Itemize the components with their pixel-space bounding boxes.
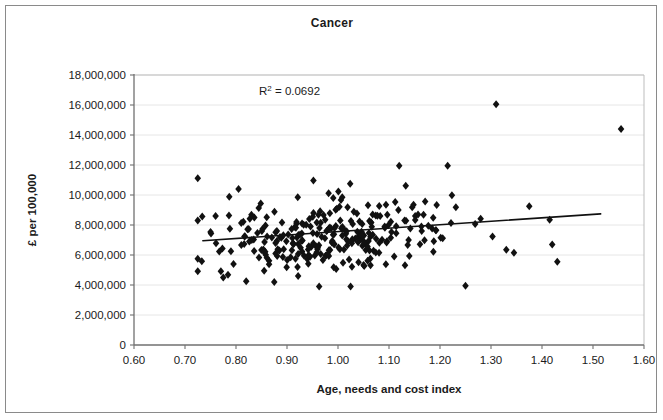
data-point — [402, 261, 409, 269]
data-point — [230, 260, 237, 268]
data-point — [396, 162, 403, 170]
data-point — [226, 193, 233, 201]
data-point — [271, 208, 278, 216]
data-point — [503, 246, 510, 254]
y-axis-title: £ per 100,000 — [26, 174, 38, 246]
data-point — [344, 203, 351, 211]
data-point — [295, 272, 302, 280]
data-point — [376, 202, 383, 210]
y-axis-tick-label: 10,000,000 — [68, 189, 126, 201]
plot-area-border — [134, 75, 644, 345]
data-point — [347, 283, 354, 291]
data-point — [212, 212, 219, 220]
annotations: R2 = 0.0692 — [259, 84, 320, 97]
data-point — [618, 125, 625, 133]
x-axis-tick-label: 1.40 — [531, 354, 553, 366]
data-point — [194, 174, 201, 182]
data-point — [283, 237, 290, 245]
data-point — [346, 255, 353, 263]
data-point — [453, 203, 460, 211]
y-axis-tick-label: 6,000,000 — [75, 249, 126, 261]
data-point — [310, 176, 317, 184]
x-axis: 0.600.700.800.901.001.101.201.301.401.50… — [123, 345, 655, 366]
data-point — [421, 236, 428, 244]
x-axis-tick-label: 0.80 — [225, 354, 247, 366]
x-axis-title: Age, needs and cost index — [316, 383, 462, 395]
data-point — [395, 206, 402, 214]
figure-border: Cancer 02,000,0004,000,0006,000,0008,000… — [5, 5, 657, 413]
x-axis-tick-label: 1.30 — [480, 354, 502, 366]
data-point — [241, 232, 248, 240]
y-axis: 02,000,0004,000,0006,000,0008,000,00010,… — [68, 69, 134, 351]
data-point — [383, 201, 390, 209]
data-point — [392, 198, 399, 206]
data-point — [422, 198, 429, 206]
data-point — [227, 225, 234, 233]
data-point — [325, 189, 332, 197]
data-point — [226, 211, 233, 219]
scatter-plot: 02,000,0004,000,0006,000,0008,000,00010,… — [6, 6, 658, 414]
data-point — [430, 214, 437, 222]
data-point — [418, 227, 425, 235]
data-point — [402, 182, 409, 190]
data-point — [549, 241, 556, 249]
data-point — [327, 209, 334, 217]
data-point — [462, 282, 469, 290]
data-point — [261, 267, 268, 275]
data-point — [431, 237, 438, 245]
data-point — [406, 252, 413, 260]
y-axis-tick-label: 8,000,000 — [75, 219, 126, 231]
data-point — [316, 283, 323, 291]
data-point — [393, 222, 400, 230]
data-point — [420, 211, 427, 219]
x-axis-tick-label: 0.70 — [174, 354, 196, 366]
r-squared-annotation: R2 = 0.0692 — [259, 84, 320, 97]
x-axis-tick-label: 1.00 — [327, 354, 349, 366]
y-axis-tick-label: 14,000,000 — [68, 129, 126, 141]
data-point — [526, 202, 533, 210]
data-point — [489, 233, 496, 241]
data-point — [384, 211, 391, 219]
y-axis-tick-label: 18,000,000 — [68, 69, 126, 81]
data-point — [294, 263, 301, 271]
x-axis-tick-label: 1.50 — [582, 354, 604, 366]
data-point — [243, 277, 250, 285]
data-point — [407, 225, 414, 233]
data-point — [365, 201, 372, 209]
x-axis-tick-label: 0.90 — [276, 354, 298, 366]
data-point — [283, 263, 290, 271]
y-axis-tick-label: 12,000,000 — [68, 159, 126, 171]
data-point — [235, 185, 242, 193]
data-point — [449, 191, 456, 199]
data-point — [472, 220, 479, 228]
y-axis-tick-label: 2,000,000 — [75, 309, 126, 321]
gridlines — [134, 75, 644, 315]
data-point — [228, 247, 235, 255]
x-axis-tick-label: 1.20 — [429, 354, 451, 366]
data-point — [263, 213, 270, 221]
data-point — [493, 100, 500, 108]
data-point — [417, 240, 424, 248]
x-axis-tick-label: 0.60 — [123, 354, 145, 366]
data-point — [251, 247, 258, 255]
data-point — [194, 267, 201, 275]
x-axis-tick-label: 1.10 — [378, 354, 400, 366]
data-point — [294, 193, 301, 201]
data-point — [433, 201, 440, 209]
y-axis-tick-label: 0 — [120, 339, 126, 351]
data-point — [393, 229, 400, 237]
data-point — [347, 180, 354, 188]
data-point — [349, 263, 356, 271]
x-axis-tick-label: 1.60 — [633, 354, 655, 366]
data-point — [383, 260, 390, 268]
data-point — [335, 188, 342, 196]
y-axis-tick-label: 4,000,000 — [75, 279, 126, 291]
data-point — [444, 162, 451, 170]
data-point — [391, 252, 398, 260]
data-point — [511, 249, 518, 257]
data-point — [554, 258, 561, 266]
data-point — [340, 259, 347, 267]
y-axis-tick-label: 16,000,000 — [68, 99, 126, 111]
